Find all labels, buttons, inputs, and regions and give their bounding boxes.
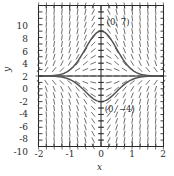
x-tick-label-1: 1 <box>125 150 139 159</box>
x-tick-label-neg1: -1 <box>63 150 77 159</box>
annotation-point-0-minus4: (0, −4) <box>105 104 135 114</box>
y-tick-label-10: 10 <box>4 22 28 31</box>
y-tick-label-neg6: -6 <box>0 123 28 132</box>
y-tick-label-6: 6 <box>4 48 28 57</box>
y-axis-label: y <box>2 67 12 72</box>
y-tick-label-0: 0 <box>4 85 28 94</box>
y-tick-label-8: 8 <box>4 35 28 44</box>
x-tick-label-neg2: -2 <box>32 150 46 159</box>
annotation-point-0-7: (0, 7) <box>107 17 130 27</box>
x-tick-label-2: 2 <box>156 150 170 159</box>
x-tick-label-0: 0 <box>94 150 108 159</box>
y-tick-label-neg8: -8 <box>0 135 28 144</box>
y-tick-label-neg2: -2 <box>0 98 28 107</box>
figure-slope-field: 10 8 6 4 2 0 -2 -4 -6 -8 -10 -2 -1 0 1 2… <box>0 0 174 176</box>
y-tick-label-neg10: -10 <box>0 148 28 157</box>
y-tick-label-2: 2 <box>4 73 28 82</box>
y-tick-label-neg4: -4 <box>0 110 28 119</box>
x-axis-label: x <box>97 162 102 172</box>
